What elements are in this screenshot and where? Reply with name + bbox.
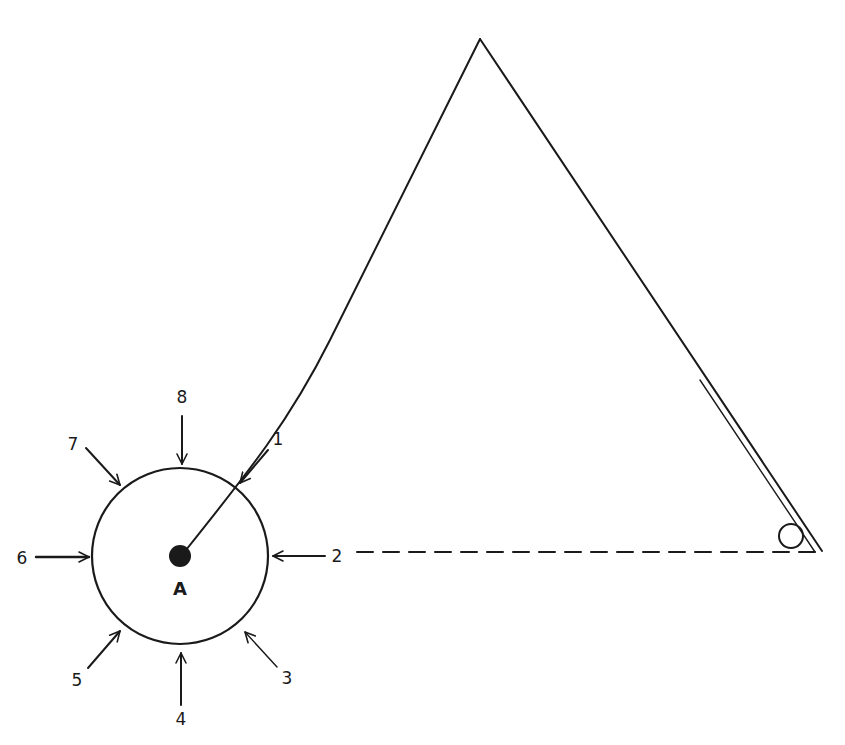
incline-outer-line [480, 39, 822, 551]
svg-text:3: 3 [282, 668, 293, 688]
force-arrow-8: 8 [177, 387, 188, 464]
svg-text:6: 6 [17, 548, 28, 568]
force-arrow-3: 3 [245, 632, 292, 688]
svg-text:7: 7 [68, 434, 79, 454]
svg-text:5: 5 [72, 670, 83, 690]
point-a-label: A [173, 578, 187, 599]
force-arrow-5: 5 [72, 631, 120, 690]
svg-text:4: 4 [176, 709, 187, 729]
force-arrow-1: 1 [240, 429, 283, 483]
force-arrow-2: 2 [273, 546, 342, 566]
string-line [186, 39, 480, 550]
force-arrow-7: 7 [68, 434, 120, 485]
svg-text:2: 2 [332, 546, 343, 566]
force-arrow-4: 4 [176, 653, 187, 729]
svg-text:8: 8 [177, 387, 188, 407]
force-arrow-6: 6 [17, 548, 89, 568]
physics-diagram: A 8 7 1 6 2 5 4 3 [0, 0, 845, 745]
ball [779, 524, 803, 548]
svg-text:1: 1 [273, 429, 284, 449]
